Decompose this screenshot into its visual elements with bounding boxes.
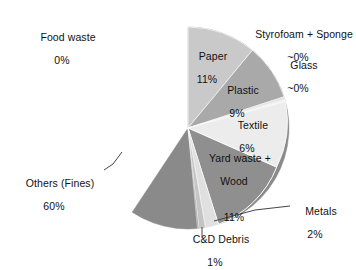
label-glass-pct: ~0%	[262, 83, 334, 95]
label-others-fines-pct: 60%	[4, 201, 104, 213]
label-food-waste-name: Food waste	[40, 31, 95, 43]
label-others-fines: Others (Fines) 60%	[4, 166, 104, 237]
label-food-waste: Food waste 0%	[14, 20, 110, 91]
label-styrofoam-sponge-name: Styrofoam + Sponge	[255, 28, 353, 40]
label-cd-debris: C&D Debris 1%	[172, 222, 258, 270]
leader-line-others-fines	[104, 152, 122, 170]
label-food-waste-pct: 0%	[14, 55, 110, 67]
label-metals-name: Metals	[305, 205, 337, 217]
label-metals-pct: 2%	[286, 229, 344, 241]
label-paper-name: Paper	[199, 50, 228, 62]
label-plastic-name: Plastic	[227, 84, 259, 96]
label-cd-debris-pct: 1%	[172, 257, 258, 269]
label-glass-name: Glass	[290, 59, 317, 71]
label-yard-waste-wood-name2: Wood	[186, 176, 282, 188]
label-metals: Metals 2%	[286, 194, 344, 265]
label-textile-name: Textile	[238, 119, 268, 131]
label-others-fines-name: Others (Fines)	[26, 177, 95, 189]
label-cd-debris-name: C&D Debris	[193, 233, 249, 245]
label-yard-waste-wood-name: Yard waste +	[209, 152, 271, 164]
